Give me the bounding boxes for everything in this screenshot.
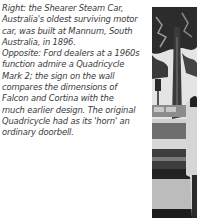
caption-line: car, was built at Mannum, South xyxy=(2,26,142,37)
caption-line: function admire a Quadricycle xyxy=(2,59,142,70)
caption-line: Australia's oldest surviving motor xyxy=(2,14,142,25)
photo-image xyxy=(152,7,197,218)
caption-line: Falcon and Cortina with the xyxy=(2,93,142,104)
caption-line: Opposite: Ford dealers at a 1960s xyxy=(2,48,142,59)
caption-line: Mark 2; the sign on the wall xyxy=(2,71,142,82)
caption-line: compares the dimensions of xyxy=(2,82,142,93)
page: Right: the Shearer Steam Car, Australia'… xyxy=(0,0,197,218)
caption-line: ordinary doorbell. xyxy=(2,127,142,138)
photograph xyxy=(152,7,197,218)
caption-line: Right: the Shearer Steam Car, xyxy=(2,3,142,14)
caption-line: Australia, in 1896. xyxy=(2,37,142,48)
caption-line: much earlier design. The original xyxy=(2,105,142,116)
caption-line: Quadricycle had as its 'horn' an xyxy=(2,116,142,127)
photo-caption: Right: the Shearer Steam Car, Australia'… xyxy=(2,3,142,139)
